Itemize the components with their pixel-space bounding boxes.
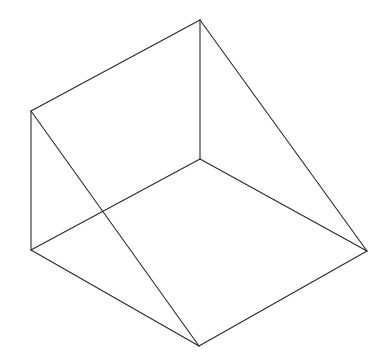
inner-back-to-right-edge [200, 159, 367, 251]
upper-left-to-bottom-edge [31, 111, 199, 346]
top-to-right-edge [200, 20, 367, 251]
bottom-to-right-edge [199, 251, 367, 346]
wedge-edges [31, 20, 367, 346]
wedge-wireframe-diagram [0, 0, 387, 364]
lower-left-to-bottom-edge [31, 250, 199, 346]
inner-back-to-lower-left-edge [31, 159, 200, 250]
top-edge [31, 20, 200, 111]
